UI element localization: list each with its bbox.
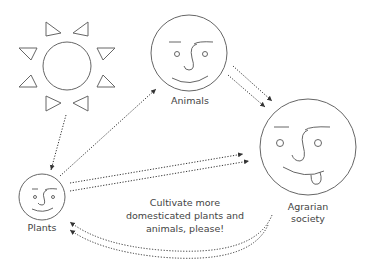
- message-line2: domesticated plants and: [110, 209, 260, 222]
- message-line3: animals, please!: [110, 222, 260, 235]
- agrarian-label-line2: society: [270, 213, 346, 225]
- sun-icon: [19, 22, 115, 111]
- plants-face-icon: [19, 174, 65, 220]
- edge-sun-plants: [51, 115, 66, 170]
- animals-label: Animals: [160, 95, 220, 107]
- message-line1: Cultivate more: [110, 196, 260, 209]
- edge-plants-agrarian-2: [70, 161, 249, 191]
- plants-label: Plants: [12, 222, 72, 234]
- agrarian-face-icon: [260, 99, 356, 195]
- edge-plants-agrarian-1: [70, 154, 243, 183]
- agrarian-label-line1: Agrarian: [270, 201, 346, 213]
- edge-animals-agrarian-1: [233, 66, 272, 101]
- animals-face-icon: [151, 15, 227, 91]
- edge-animals-agrarian-2: [228, 75, 265, 107]
